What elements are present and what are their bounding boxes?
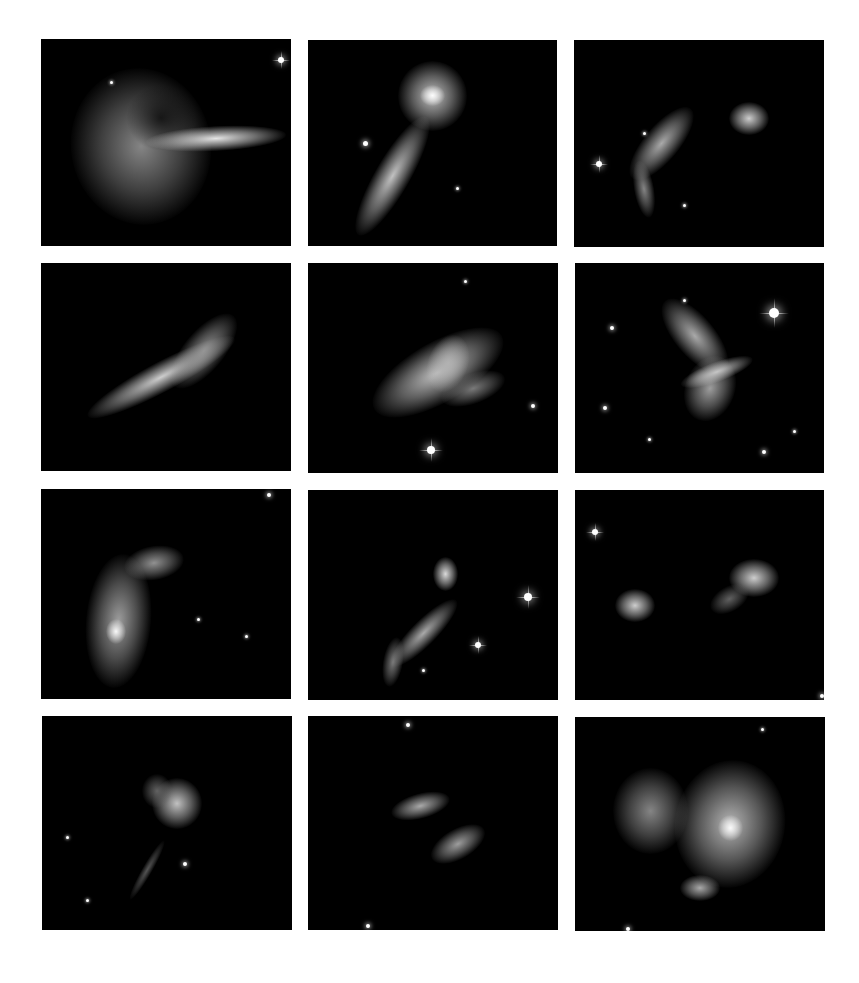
star-point — [464, 280, 467, 283]
galaxy-photo-panel — [41, 39, 291, 246]
star-point — [820, 694, 824, 698]
galaxy-photo-panel — [308, 716, 558, 930]
galaxy-photo-panel — [575, 717, 825, 931]
star-flare — [431, 438, 432, 462]
galaxy-shape — [159, 302, 248, 398]
galaxy-shape — [613, 768, 688, 854]
star-point — [648, 438, 651, 441]
star-point — [683, 204, 686, 207]
galaxy-shape — [126, 838, 169, 902]
star-point — [66, 836, 69, 839]
galaxy-shape — [142, 774, 172, 808]
star-point — [110, 81, 113, 84]
star-flare — [281, 51, 282, 69]
star-point — [86, 899, 89, 902]
star-point — [643, 132, 646, 135]
star-point — [183, 862, 187, 866]
star-point — [363, 141, 368, 146]
star-flare — [774, 298, 775, 328]
galaxy-shape — [425, 816, 492, 872]
galaxy-shape — [420, 85, 445, 106]
galaxy-photo-panel — [575, 490, 824, 700]
galaxy-shape — [388, 786, 452, 826]
galaxy-photo-panel — [575, 263, 824, 473]
galaxy-shape — [106, 619, 126, 644]
galaxy-shape — [729, 102, 769, 135]
galaxy-photo-panel — [41, 489, 291, 699]
star-point — [245, 635, 248, 638]
star-flare — [599, 155, 600, 173]
galaxy-shape — [680, 875, 720, 901]
star-flare — [478, 636, 479, 654]
star-point — [456, 187, 459, 190]
galaxy-photo-panel — [308, 490, 558, 700]
galaxy-shape — [718, 815, 743, 841]
galaxy-photo-panel — [574, 40, 824, 247]
star-point — [406, 723, 410, 727]
galaxy-shape — [379, 636, 407, 689]
galaxy-photo-panel — [308, 263, 558, 473]
star-point — [610, 326, 614, 330]
star-point — [197, 618, 200, 621]
galaxy-shape — [344, 108, 442, 243]
galaxy-photo-panel — [42, 716, 292, 930]
star-point — [422, 669, 425, 672]
star-point — [603, 406, 607, 410]
star-point — [366, 924, 370, 928]
star-point — [531, 404, 535, 408]
star-point — [626, 927, 630, 931]
galaxy-shape — [433, 557, 458, 591]
galaxy-shape — [619, 97, 704, 189]
star-point — [762, 450, 766, 454]
star-flare — [528, 585, 529, 609]
galaxy-photo-panel — [308, 40, 557, 246]
star-point — [793, 430, 796, 433]
star-flare — [595, 523, 596, 541]
galaxy-shape — [615, 589, 655, 623]
star-point — [761, 728, 764, 731]
star-point — [267, 493, 271, 497]
galaxy-photo-panel — [41, 263, 291, 471]
